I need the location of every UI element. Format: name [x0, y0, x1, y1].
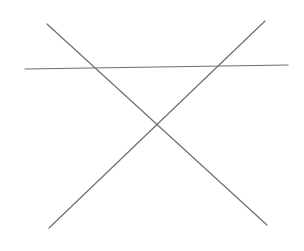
drawing-canvas: [0, 0, 304, 251]
line-drawing: [0, 0, 304, 251]
ascending-diagonal-line: [49, 21, 265, 228]
horizontal-line: [25, 65, 288, 69]
